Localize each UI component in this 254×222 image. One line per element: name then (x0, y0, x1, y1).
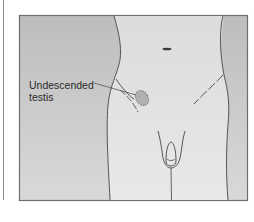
anatomy-illustration (0, 0, 254, 222)
scrotal-raphe (171, 168, 172, 200)
undescended-testis-label: Undescended testis (29, 79, 94, 103)
label-line-1: Undescended (29, 79, 94, 91)
penis (166, 142, 176, 166)
navel (163, 48, 172, 51)
anatomy-figure: Undescended testis (0, 0, 254, 222)
torso-silhouette (107, 16, 229, 200)
label-line-2: testis (29, 91, 54, 103)
